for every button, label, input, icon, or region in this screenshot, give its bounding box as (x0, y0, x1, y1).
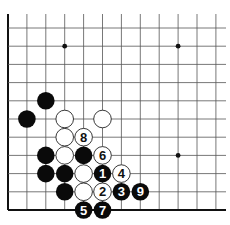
stone-circle-icon (56, 165, 74, 183)
black-stone-move-5: 5 (75, 201, 93, 219)
move-number-label: 7 (99, 203, 106, 218)
white-stone-move-4: 4 (113, 165, 131, 183)
stone-circle-icon (37, 92, 55, 110)
black-stone (56, 165, 74, 183)
black-stone (37, 147, 55, 165)
black-stone (18, 110, 36, 128)
white-stone (56, 147, 74, 165)
white-stone (94, 110, 112, 128)
black-stone (37, 92, 55, 110)
move-number-label: 4 (118, 166, 126, 181)
stone-circle-icon (56, 128, 74, 146)
move-number-label: 3 (118, 184, 125, 199)
white-stone-move-2: 2 (94, 183, 112, 201)
stone-circle-icon (94, 110, 112, 128)
go-board-diagram: 861423957 (0, 0, 230, 225)
stone-circle-icon (75, 147, 93, 165)
move-number-label: 2 (99, 184, 106, 199)
move-number-label: 5 (80, 203, 87, 218)
move-number-label: 8 (80, 130, 87, 145)
stone-circle-icon (75, 165, 93, 183)
stone-circle-icon (56, 183, 74, 201)
black-stone (75, 147, 93, 165)
star-point-icon (62, 44, 67, 49)
white-stone (75, 183, 93, 201)
black-stone (37, 165, 55, 183)
move-number-label: 9 (137, 184, 144, 199)
black-stone-move-1: 1 (94, 165, 112, 183)
star-point-icon (176, 44, 181, 49)
black-stone-move-9: 9 (132, 183, 150, 201)
stone-circle-icon (37, 165, 55, 183)
white-stone-move-6: 6 (94, 147, 112, 165)
move-number-label: 6 (99, 148, 106, 163)
stone-circle-icon (18, 110, 36, 128)
white-stone-move-8: 8 (75, 128, 93, 146)
black-stone (56, 183, 74, 201)
move-number-label: 1 (99, 166, 106, 181)
black-stone-move-7: 7 (94, 201, 112, 219)
star-point-icon (176, 153, 181, 158)
stone-circle-icon (37, 147, 55, 165)
stone-circle-icon (56, 110, 74, 128)
white-stone (56, 128, 74, 146)
stone-circle-icon (56, 147, 74, 165)
stone-circle-icon (75, 183, 93, 201)
black-stone-move-3: 3 (113, 183, 131, 201)
white-stone (56, 110, 74, 128)
white-stone (75, 165, 93, 183)
